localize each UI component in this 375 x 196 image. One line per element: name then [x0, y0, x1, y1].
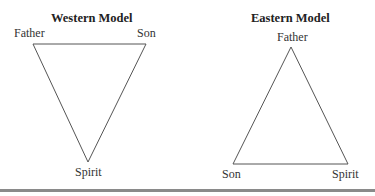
eastern-triangle — [233, 47, 348, 164]
triangle-lines — [0, 0, 375, 196]
bottom-rule-divider — [0, 189, 375, 192]
western-triangle — [33, 44, 146, 162]
